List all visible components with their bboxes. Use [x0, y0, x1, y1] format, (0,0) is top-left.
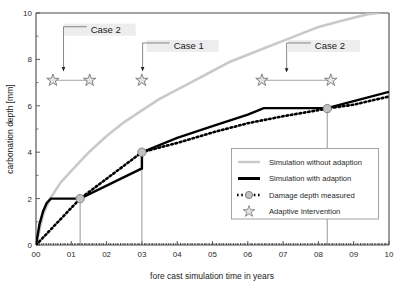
data-marker [76, 194, 84, 202]
adaptive-intervention-stars [47, 74, 337, 86]
chart-legend: Simulation without adaptionSimulation wi… [232, 149, 379, 220]
y-tick-label: 2 [28, 195, 33, 204]
x-tick-label: 02 [102, 250, 111, 259]
y-tick-label: 10 [23, 9, 32, 18]
case-annotation-label: Case 2 [91, 24, 121, 35]
y-tick-label: 4 [28, 148, 33, 157]
intervention-star [325, 74, 337, 86]
x-tick-label: 10 [385, 250, 394, 259]
legend-label: Simulation without adaption [269, 158, 362, 167]
x-tick-label: 00 [32, 250, 41, 259]
intervention-star [47, 74, 59, 86]
y-tick-label: 0 [28, 241, 33, 250]
chart-canvas: 0246810 0001020304050607080910 fore cast… [0, 0, 406, 292]
case-annotation-label: Case 2 [315, 40, 345, 51]
carbonation-depth-chart: 0246810 0001020304050607080910 fore cast… [0, 0, 406, 292]
case-annotation-label: Case 1 [174, 40, 204, 51]
x-tick-label: 04 [173, 250, 182, 259]
x-axis-title: fore cast simulation time in years [150, 271, 274, 281]
legend-label: Adaptive Intervention [269, 207, 340, 216]
intervention-star [83, 74, 95, 86]
x-tick-label: 09 [349, 250, 358, 259]
data-marker [138, 148, 146, 156]
data-marker [323, 104, 331, 112]
intervention-star [136, 74, 148, 86]
intervention-star [256, 74, 268, 86]
x-tick-label: 01 [67, 250, 76, 259]
x-tick-label: 08 [314, 250, 323, 259]
x-tick-label: 03 [137, 250, 146, 259]
x-tick-label: 05 [208, 250, 217, 259]
legend-label: Simulation with adaption [269, 174, 351, 183]
legend-label: Damage depth measured [269, 191, 355, 200]
case-annotations: Case 2Case 1Case 2 [62, 24, 360, 73]
x-tick-label: 07 [279, 250, 288, 259]
y-axis-ticks: 0246810 [23, 9, 40, 250]
x-tick-label: 06 [243, 250, 252, 259]
y-tick-label: 6 [28, 102, 33, 111]
y-axis-title: carbonation depth [mm] [5, 84, 15, 173]
y-tick-label: 8 [28, 55, 33, 64]
